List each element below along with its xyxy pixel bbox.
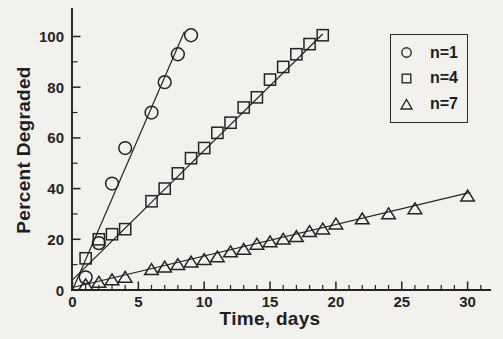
- fit-line: [73, 192, 471, 287]
- y-tick-label: 20: [47, 231, 64, 248]
- legend-label-n1: n=1: [430, 45, 458, 61]
- circle-marker-icon: [399, 45, 414, 60]
- triangle-marker: [118, 271, 132, 282]
- square-marker: [172, 168, 183, 179]
- series-n1: [73, 29, 198, 290]
- x-tick-label: 20: [328, 293, 345, 310]
- square-marker: [264, 74, 275, 85]
- legend-item-n4: n=4: [399, 70, 458, 86]
- degradation-chart-figure: 051015202530020406080100 Percent Degrade…: [0, 0, 503, 339]
- triangle-marker-icon: [399, 97, 414, 112]
- circle-marker: [92, 237, 105, 250]
- series-n4: [73, 30, 329, 280]
- y-tick-label: 40: [47, 180, 64, 197]
- y-tick-label: 0: [56, 282, 64, 299]
- y-tick-label: 60: [47, 129, 64, 146]
- circle-marker: [106, 177, 119, 190]
- square-marker: [106, 229, 117, 240]
- square-marker: [317, 30, 328, 41]
- circle-marker: [79, 271, 92, 284]
- x-tick-label: 0: [68, 293, 76, 310]
- legend-item-n7: n=7: [399, 96, 458, 112]
- square-marker: [185, 153, 196, 164]
- legend-label-n7: n=7: [430, 96, 458, 112]
- triangle-marker: [461, 190, 475, 201]
- circle-marker: [171, 48, 184, 61]
- square-marker-icon: [399, 71, 414, 86]
- square-marker: [120, 224, 131, 235]
- series-n7: [73, 190, 475, 290]
- square-marker: [199, 142, 210, 153]
- x-tick-label: 25: [393, 293, 410, 310]
- x-tick-label: 30: [459, 293, 476, 310]
- square-marker: [304, 39, 315, 50]
- fit-line: [73, 31, 185, 290]
- square-marker: [225, 117, 236, 128]
- x-tick-label: 10: [196, 293, 213, 310]
- y-axis-ticks: 020406080100: [39, 28, 81, 299]
- fit-line: [73, 34, 323, 280]
- square-marker: [146, 196, 157, 207]
- circle-marker: [185, 29, 198, 42]
- triangle-marker: [171, 259, 185, 270]
- circle-marker: [145, 106, 158, 119]
- y-axis-label: Percent Degraded: [13, 66, 35, 233]
- circle-marker: [158, 76, 171, 89]
- legend-label-n4: n=4: [430, 70, 458, 86]
- x-tick-label: 5: [134, 293, 142, 310]
- y-tick-label: 80: [47, 79, 64, 96]
- x-axis-ticks: 051015202530: [68, 282, 480, 311]
- square-marker: [278, 61, 289, 72]
- square-marker: [251, 92, 262, 103]
- y-tick-label: 100: [39, 28, 64, 45]
- legend-box: n=1 n=4 n=7: [390, 34, 468, 123]
- legend-item-n1: n=1: [399, 45, 458, 61]
- x-axis-label: Time, days: [220, 308, 321, 330]
- circle-marker: [119, 142, 132, 155]
- square-marker: [291, 49, 302, 60]
